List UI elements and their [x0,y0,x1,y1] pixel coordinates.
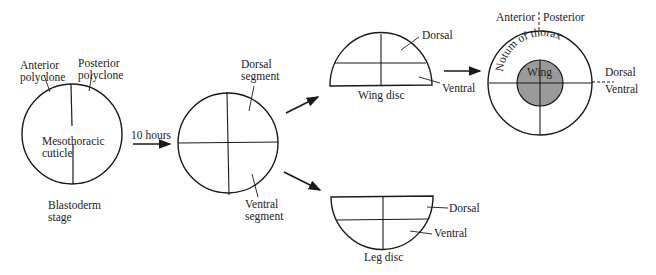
segment-circle [178,86,278,197]
stage-label: stage [48,211,72,224]
adult-ventral-label: Ventral [605,83,638,95]
arrow-to-leg-disc [284,172,320,190]
wing-disc-ventral-label: Ventral [442,82,475,94]
posterior-polyclone-label: Posterior [78,57,120,69]
blastoderm-label: Blastoderm [48,199,101,211]
leg-disc-ventral-label: Ventral [434,227,467,239]
developmental-diagram: Anterior polyclone Posterior polyclone M… [0,0,656,275]
mesothoracic-label: Mesothoracic [42,135,105,147]
ventral-segment-label-2: segment [245,210,284,223]
blastoderm-circle [22,74,122,184]
posterior-polyclone-label-2: polyclone [78,69,123,82]
adult-dorsal-label: Dorsal [605,66,636,78]
arrow-to-wing-disc [286,97,318,113]
dorsal-segment-label: Dorsal [241,58,272,70]
ventral-segment-label: Ventral [245,198,278,210]
anterior-polyclone-label: Anterior [20,59,59,71]
cuticle-label: cuticle [42,147,73,159]
posterior-label: Posterior [543,11,585,23]
leg-disc-dorsal-label: Dorsal [449,202,480,214]
leg-disc-title: Leg disc [364,251,403,264]
wing-disc-dorsal-label: Dorsal [422,29,453,41]
ten-hours-label: 10 hours [131,129,171,141]
wing-label: Wing [527,66,552,79]
leg-disc-shape [331,196,448,249]
anterior-polyclone-label-2: polyclone [20,71,65,84]
wing-disc-title: Wing disc [358,89,405,102]
anterior-label: Anterior [496,11,535,23]
dorsal-segment-label-2: segment [241,70,280,83]
